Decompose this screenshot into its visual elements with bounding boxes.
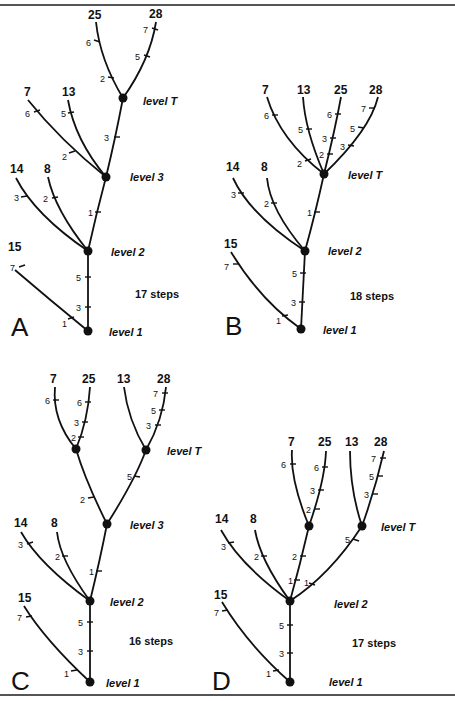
step-mark: 3 [146,421,151,431]
step-mark: 7 [224,262,229,272]
taxon-label: 28 [374,435,388,449]
step-mark: 2 [80,495,85,505]
step-mark: 1 [88,208,93,218]
step-count: 18 steps [350,290,394,302]
step-mark: 3 [74,418,79,428]
taxon-label: 25 [318,435,332,449]
cladogram-figure: 6 2 7 5 6 2 5 3 3 2 1 7 1 5 3 25 28 7 13… [0,0,455,701]
step-mark: 3 [221,542,226,552]
taxon-label: 14 [215,512,229,526]
step-mark: 1 [89,567,94,577]
taxon-label: 13 [62,85,76,99]
step-mark: 5 [369,472,374,482]
taxon-label: 8 [250,512,257,526]
step-mark: 3 [279,649,284,659]
step-mark: 5 [61,109,66,119]
step-mark: 5 [151,406,156,416]
step-mark: 3 [78,647,83,657]
step-mark: 2 [292,552,297,562]
step-mark: 3 [18,540,23,550]
taxon-label: 15 [224,237,238,251]
step-mark: 3 [364,490,369,500]
step-mark: 3 [322,134,327,144]
level-label: level T [143,95,179,107]
level-label: level T [381,521,417,533]
step-mark: 3 [14,193,19,203]
step-mark: 2 [62,152,67,162]
taxon-label: 15 [8,240,22,254]
level-label: level 1 [106,677,140,689]
step-mark: 2 [306,505,311,515]
step-mark: 5 [127,472,132,482]
step-mark: 5 [279,621,284,631]
taxon-label: 13 [345,435,359,449]
step-mark: 6 [327,110,332,120]
step-mark: 2 [100,74,105,84]
step-mark: 3 [340,142,345,152]
panel-c: 6 6 3 2 7 5 3 2 5 3 2 1 7 1 5 3 7 25 13 … [11,372,203,696]
level-label: level 2 [334,598,368,610]
step-mark: 2 [71,433,76,443]
step-mark: 3 [104,133,109,143]
taxon-label: 14 [226,160,240,174]
step-mark: 1 [304,578,309,588]
step-mark: 5 [292,269,297,279]
taxon-label: 25 [82,372,96,386]
step-mark: 6 [77,398,82,408]
step-mark: 1 [266,669,271,679]
step-mark: 7 [10,263,15,273]
step-mark: 3 [291,298,296,308]
step-mark: 2 [264,199,269,209]
level-label: level T [167,445,203,457]
step-mark: 6 [281,460,286,470]
taxon-label: 28 [157,372,171,386]
level-label: level 2 [110,596,144,608]
step-mark: 7 [17,613,22,623]
step-mark: 5 [135,52,140,62]
panel-letter: D [212,666,231,696]
level-label: level 2 [328,245,362,257]
step-mark: 3 [231,190,236,200]
step-count: 16 steps [129,635,173,647]
taxon-label: 14 [14,516,28,530]
step-mark: 1 [307,208,312,218]
step-mark: 2 [319,150,324,160]
step-mark: 7 [371,454,376,464]
level-label: level 3 [130,171,164,183]
step-mark: 7 [143,25,148,35]
taxon-label: 7 [262,83,269,97]
step-mark: 5 [350,124,355,134]
level-label: level 1 [323,324,357,336]
taxon-label: 25 [88,8,102,22]
step-mark: 1 [64,669,69,679]
panel-a: 6 2 7 5 6 2 5 3 3 2 1 7 1 5 3 25 28 7 13… [8,7,179,342]
level-label: level 1 [329,676,363,688]
step-mark: 7 [361,104,366,114]
taxon-label: 8 [261,160,268,174]
step-mark: 6 [25,109,30,119]
level-label: level 3 [130,519,164,531]
step-mark: 7 [153,389,158,399]
panel-letter: C [11,666,30,696]
taxon-label: 13 [297,83,311,97]
taxon-label: 7 [50,372,57,386]
step-mark: 1 [288,576,293,586]
step-mark: 1 [62,319,67,329]
step-count: 17 steps [135,288,179,300]
taxon-label: 7 [24,85,31,99]
step-count: 17 steps [352,637,396,649]
step-mark: 6 [45,396,50,406]
taxon-label: 28 [369,83,383,97]
step-mark: 7 [214,608,219,618]
taxon-label: 15 [214,588,228,602]
step-mark: 3 [76,303,81,313]
taxon-label: 15 [18,591,32,605]
level-label: level T [348,169,384,181]
step-mark: 6 [86,38,91,48]
level-label: level 1 [109,326,143,338]
step-mark: 5 [76,273,81,283]
panel-letter: B [225,311,242,341]
step-mark: 2 [254,552,259,562]
panel-letter: A [11,312,29,342]
taxon-label: 8 [44,162,51,176]
